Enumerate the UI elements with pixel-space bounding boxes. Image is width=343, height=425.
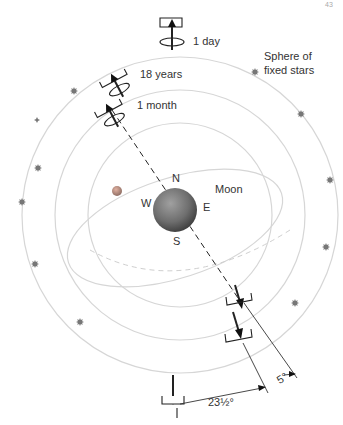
moon-icon: [112, 186, 122, 196]
angle-indicators: [180, 303, 297, 404]
label-angle-23: 23½°: [208, 397, 234, 408]
label-west: W: [141, 198, 151, 209]
label-1-month: 1 month: [137, 100, 177, 111]
page-number: 43: [325, 1, 333, 8]
label-north: N: [172, 173, 180, 184]
label-sphere-line1: Sphere of: [264, 51, 312, 62]
label-18-years: 18 years: [140, 69, 182, 80]
years-rotation-symbol: [99, 67, 136, 103]
label-1-day: 1 day: [193, 36, 220, 47]
label-east: E: [203, 202, 210, 213]
day-rotation-symbol: [160, 18, 184, 50]
earth-icon: [153, 188, 197, 232]
label-moon: Moon: [215, 184, 243, 195]
south-pole-arrows: [162, 285, 252, 418]
moon-orbit-back: [90, 230, 290, 271]
label-sphere-line2: fixed stars: [264, 65, 314, 76]
label-south: S: [173, 236, 180, 247]
